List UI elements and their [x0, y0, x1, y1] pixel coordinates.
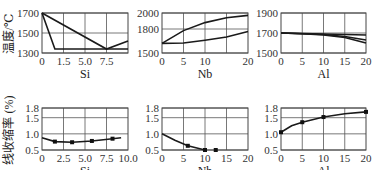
data-point	[279, 130, 283, 134]
y-tick-label: 1300	[17, 47, 40, 59]
y-tick-label: 1700	[256, 27, 279, 39]
data-point	[203, 148, 207, 152]
y-tick-label: 1.0	[264, 128, 278, 140]
data-point	[186, 144, 190, 148]
data-point	[364, 110, 368, 114]
x-tick-label: 15	[339, 55, 351, 67]
x-axis-label: Si	[80, 164, 91, 170]
x-tick-label: 0	[278, 152, 284, 164]
chart-panel-bottom-left: 0.51.01.51.802.55.07.510.0Si	[25, 102, 138, 170]
x-tick-label: 20	[243, 152, 255, 164]
x-axis-label: Nb	[198, 164, 213, 170]
x-tick-label: 1.5	[57, 55, 71, 67]
y-tick-label: 0.5	[25, 144, 39, 156]
y-tick-label: 1800	[137, 23, 160, 35]
x-tick-label: 20	[361, 55, 373, 67]
y-tick-label: 1.0	[145, 128, 159, 140]
x-tick-label: 7.5	[100, 152, 114, 164]
y-tick-label: 0.5	[264, 144, 278, 156]
figure-canvas: 温度/℃ 线收缩率 (%) 13001500170001.55.07.5Si15…	[0, 0, 376, 170]
x-tick-label: 0	[278, 55, 284, 67]
data-point	[300, 120, 304, 124]
y-tick-label: 1700	[17, 7, 40, 19]
x-axis-label: Al	[318, 164, 331, 170]
x-tick-label: 5	[300, 55, 306, 67]
x-tick-label: 10	[318, 152, 330, 164]
x-tick-label: 15	[339, 152, 351, 164]
y-tick-label: 2000	[137, 7, 160, 19]
bottom-row-ylabel: 线收缩率 (%)	[1, 96, 16, 165]
x-tick-label: 0	[159, 55, 165, 67]
y-tick-label: 1500	[137, 47, 160, 59]
x-tick-label: 5	[300, 152, 306, 164]
x-tick-label: 15	[221, 152, 233, 164]
x-tick-label: 10	[318, 55, 330, 67]
x-tick-label: 5.0	[78, 55, 92, 67]
data-point	[53, 140, 57, 144]
data-point	[322, 115, 326, 119]
chart-panel-top-left: 13001500170001.55.07.5Si	[17, 7, 128, 81]
x-tick-label: 0	[39, 152, 45, 164]
chart-panel-bottom-right: 0.51.01.51.805101520Al	[264, 102, 372, 170]
y-tick-label: 0.5	[145, 144, 159, 156]
x-tick-label: 5	[181, 152, 187, 164]
y-tick-label: 1500	[256, 47, 279, 59]
x-axis-label: Nb	[198, 67, 213, 81]
x-tick-label: 5.0	[78, 152, 92, 164]
chart-panel-top-middle: 150018002000051020Nb	[137, 7, 254, 81]
chart-panel-bottom-middle: 0.51.01.51.805101520Nb	[145, 102, 254, 170]
x-tick-label: 7.5	[100, 55, 114, 67]
x-tick-label: 5	[181, 55, 187, 67]
x-tick-label: 20	[243, 55, 255, 67]
data-point	[70, 140, 74, 144]
x-tick-label: 20	[361, 152, 373, 164]
y-tick-label: 1500	[17, 27, 40, 39]
x-tick-label: 10.0	[118, 152, 138, 164]
x-axis-label: Si	[80, 67, 91, 81]
y-tick-label: 1.8	[25, 102, 39, 114]
y-tick-label: 1.8	[145, 102, 159, 114]
data-point	[111, 137, 115, 141]
x-tick-label: 10	[200, 152, 212, 164]
chart-panel-top-right: 15001700190005101520Al	[256, 7, 372, 81]
x-axis-label: Al	[318, 67, 331, 81]
x-tick-label: 2.5	[57, 152, 71, 164]
y-tick-label: 1.0	[25, 128, 39, 140]
x-tick-label: 10	[200, 55, 212, 67]
x-tick-label: 0	[159, 152, 165, 164]
top-row-ylabel: 温度/℃	[1, 14, 16, 55]
data-point	[90, 139, 94, 143]
y-tick-label: 1.8	[264, 102, 278, 114]
data-point	[214, 148, 218, 152]
x-tick-label: 0	[39, 55, 45, 67]
y-tick-label: 1900	[256, 7, 279, 19]
